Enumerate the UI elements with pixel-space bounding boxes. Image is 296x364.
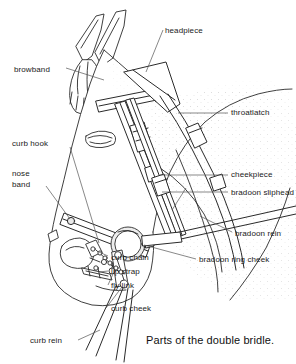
- label-bradoon-rein: bradoon rein: [235, 229, 281, 239]
- label-lip-strap: lip strap: [111, 267, 140, 277]
- label-browband: browband: [14, 65, 50, 75]
- label-fly-link: fly link: [111, 281, 134, 291]
- label-nose-band-line2: band: [12, 180, 30, 190]
- leader-curb-rein: [78, 330, 100, 340]
- label-headpiece: headpiece: [165, 26, 203, 36]
- figure-caption: Parts of the double bridle.: [146, 334, 274, 347]
- label-curb-rein: curb rein: [30, 336, 62, 346]
- label-cheekpiece: cheekpiece: [231, 170, 272, 180]
- label-curb-cheek: curb cheek: [111, 304, 151, 314]
- label-curb-chain: curb chain: [111, 253, 149, 263]
- label-bradoon-sliphead: bradoon sliphead: [231, 188, 294, 198]
- bridle-diagram-figure: headpiece browband throatlatch curb hook…: [0, 0, 296, 364]
- label-bradoon-ring-cheek: bradoon ring cheek: [199, 255, 269, 265]
- label-throatlatch: throatlatch: [231, 108, 269, 118]
- label-nose-band-line1: nose: [12, 169, 30, 179]
- noseband-buckle: [67, 217, 74, 224]
- label-curb-hook: curb hook: [12, 139, 48, 149]
- eye: [86, 131, 116, 148]
